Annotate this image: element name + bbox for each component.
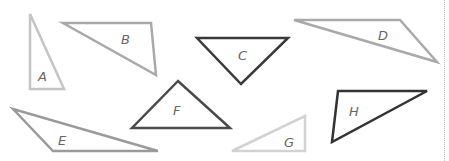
triangle-d-shape	[294, 20, 437, 62]
triangle-h: H	[332, 91, 427, 142]
triangle-f: F	[132, 81, 230, 128]
triangle-b: B	[63, 23, 156, 75]
triangles-diagram: A B C D E F G H	[0, 0, 449, 161]
triangle-h-label: H	[349, 104, 359, 119]
triangle-b-label: B	[121, 32, 130, 47]
triangle-e: E	[13, 109, 158, 151]
triangle-b-shape	[63, 23, 156, 75]
triangle-c-label: C	[238, 48, 248, 63]
triangle-a-shape	[30, 14, 64, 89]
triangle-h-shape	[332, 91, 427, 142]
triangle-e-label: E	[58, 133, 67, 148]
triangle-f-label: F	[173, 103, 181, 118]
triangle-d: D	[294, 20, 437, 62]
triangle-f-shape	[132, 81, 230, 128]
triangle-g: G	[232, 116, 305, 151]
triangle-e-shape	[13, 109, 158, 151]
dotted-margin-line	[444, 0, 445, 161]
triangle-g-label: G	[284, 135, 294, 150]
triangle-a: A	[30, 14, 64, 89]
triangle-d-label: D	[378, 28, 388, 43]
triangle-a-label: A	[37, 69, 47, 84]
triangle-c: C	[197, 38, 288, 84]
